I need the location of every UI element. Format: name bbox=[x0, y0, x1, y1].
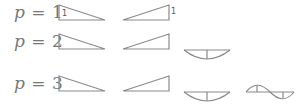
linear-increasing-shape bbox=[123, 76, 169, 91]
row-3-shapes bbox=[59, 76, 294, 101]
unit-marker-left: 1 bbox=[62, 9, 67, 18]
row-2-shapes bbox=[59, 34, 230, 59]
shape-function-diagram: 1 1 bbox=[0, 0, 307, 108]
linear-increasing-shape bbox=[123, 34, 169, 49]
row-1-shapes bbox=[59, 5, 169, 20]
linear-decreasing-shape bbox=[59, 76, 105, 91]
linear-decreasing-shape bbox=[59, 34, 105, 49]
quadratic-bubble-shape bbox=[184, 50, 230, 59]
quadratic-bubble-shape bbox=[184, 92, 230, 101]
unit-marker-right: 1 bbox=[171, 7, 176, 16]
cubic-bubble-shape bbox=[246, 85, 294, 99]
linear-increasing-shape bbox=[123, 5, 169, 20]
